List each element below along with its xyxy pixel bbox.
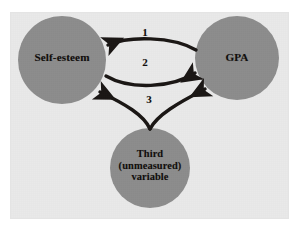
causal-diagram: [0, 0, 301, 231]
node-circle-self-esteem[interactable]: [18, 16, 106, 104]
figure-root: Self-esteem GPA Third (unmeasured) varia…: [0, 0, 301, 231]
node-circle-third-variable[interactable]: [110, 128, 190, 208]
edge-arrow-1[interactable]: [108, 39, 196, 50]
edge-arrow-3[interactable]: [100, 89, 205, 129]
node-circle-gpa[interactable]: [195, 16, 279, 100]
edge-arrow-2[interactable]: [106, 73, 195, 85]
